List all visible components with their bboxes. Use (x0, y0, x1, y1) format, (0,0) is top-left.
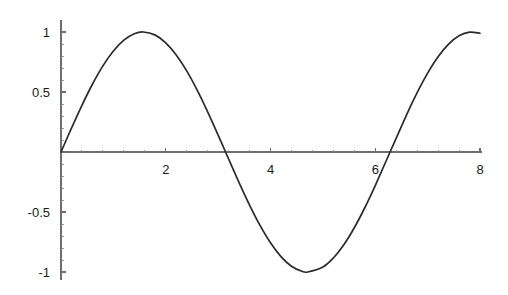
x-tick-label: 6 (372, 162, 379, 177)
y-tick-label: -1 (38, 265, 50, 280)
x-tick-label: 4 (267, 162, 274, 177)
plot-canvas: 2468 10.5-0.5-1 (0, 0, 508, 295)
y-tick-label: 0.5 (32, 85, 50, 100)
x-tick-labels-group: 2468 (162, 162, 483, 177)
x-tick-label: 2 (162, 162, 169, 177)
x-tick-label: 8 (476, 162, 483, 177)
sine-plot-figure: 2468 10.5-0.5-1 (0, 0, 508, 295)
y-tick-label: 1 (43, 25, 50, 40)
y-tick-labels-group: 10.5-0.5-1 (28, 25, 50, 280)
y-tick-label: -0.5 (28, 205, 50, 220)
x-axis-group (61, 148, 482, 152)
